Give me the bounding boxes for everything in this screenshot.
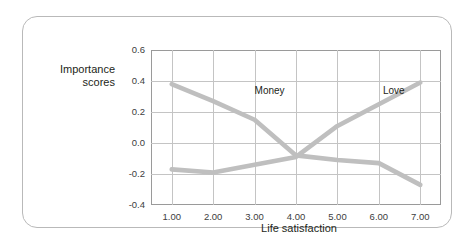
series-label-love: Love	[383, 85, 405, 96]
x-axis-title: Life satisfaction	[151, 222, 447, 234]
series-line-love	[172, 83, 421, 173]
y-tick-label: 0.0	[111, 137, 145, 148]
x-tick-label: 4.00	[275, 211, 317, 222]
x-tick-label: 5.00	[316, 211, 358, 222]
x-tick-label: 2.00	[192, 211, 234, 222]
series-line-money	[172, 84, 421, 185]
y-tick-label: -0.4	[111, 199, 145, 210]
series-label-money: Money	[255, 85, 285, 96]
figure-card: Importance scores MoneyLove 0.60.40.20.0…	[22, 16, 452, 228]
x-tick-label: 6.00	[358, 211, 400, 222]
x-tick-label: 7.00	[399, 211, 441, 222]
y-tick-label: 0.2	[111, 106, 145, 117]
series-lines	[151, 50, 441, 205]
y-axis-title: Importance scores	[33, 63, 115, 89]
y-tick-label: -0.2	[111, 168, 145, 179]
x-tick-label: 1.00	[151, 211, 193, 222]
y-tick-label: 0.4	[111, 75, 145, 86]
x-tick-label: 3.00	[234, 211, 276, 222]
y-tick-label: 0.6	[111, 44, 145, 55]
plot-area: MoneyLove	[151, 50, 441, 205]
